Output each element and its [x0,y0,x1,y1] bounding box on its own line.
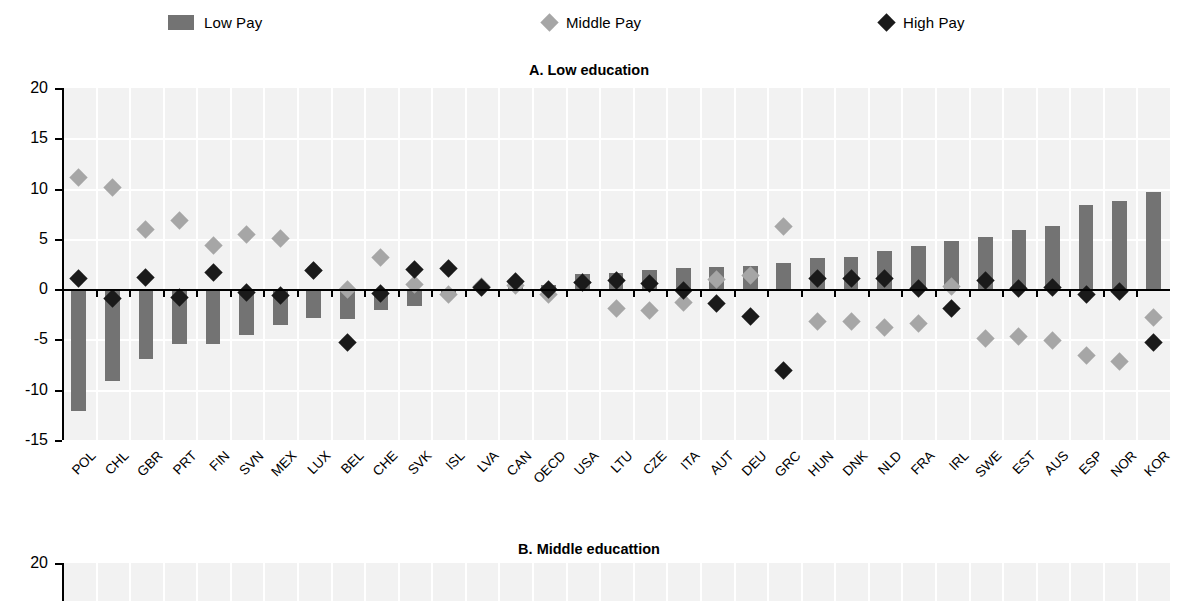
marker-middle-pay [70,168,88,186]
marker-high-pay [943,299,961,317]
gridline-vertical [834,563,836,601]
y-axis-label: -5 [0,330,48,348]
y-axis-label: 5 [0,230,48,248]
gridline-vertical [465,563,467,601]
marker-high-pay [1144,333,1162,351]
gridline-vertical [230,563,232,601]
gridline-vertical [196,88,198,440]
x-axis-tick [1069,291,1071,297]
y-axis-tick [55,563,62,565]
chart-plot-low-education: 20151050-5-10-15POLCHLGBRPRTFINSVNMEXLUX… [0,88,1178,518]
gridline-vertical [398,563,400,601]
gridline-vertical [364,88,366,440]
gridline-vertical [1103,88,1105,440]
y-axis-tick [55,239,62,241]
legend-label: High Pay [903,14,965,31]
gridline-vertical [331,88,333,440]
marker-high-pay [708,294,726,312]
gridline-vertical [734,563,736,601]
plot-area [62,88,1170,440]
x-axis-tick [599,291,601,297]
x-axis-tick [96,291,98,297]
gridline-vertical [465,88,467,440]
y-axis-tick [55,88,62,90]
x-axis-tick [566,291,568,297]
x-axis-tick [163,291,165,297]
x-axis-tick [331,291,333,297]
x-axis-tick [465,291,467,297]
marker-middle-pay [1043,331,1061,349]
marker-middle-pay [137,221,155,239]
y-axis-label: -10 [0,381,48,399]
gridline-vertical [498,563,500,601]
legend-item-high-pay[interactable]: High Pay [880,14,965,31]
panel-middle-education: B. Middle educattion 20151050-5-10-15 [0,537,1178,601]
y-axis-label: -15 [0,431,48,449]
panel-b-title: B. Middle educattion [0,541,1178,557]
y-axis-tick [55,289,62,291]
x-axis-tick [633,291,635,297]
marker-middle-pay [875,318,893,336]
marker-high-pay [741,307,759,325]
x-axis-tick [1103,291,1105,297]
gridline-vertical [566,563,568,601]
bar-low-pay [776,263,791,289]
y-axis-line [62,563,64,601]
legend-diamond-icon [877,13,895,31]
marker-middle-pay [1144,308,1162,326]
gridline-vertical [901,88,903,440]
gridline-vertical [767,88,769,440]
gridline-vertical [633,88,635,440]
marker-high-pay [405,260,423,278]
gridline-vertical [431,88,433,440]
gridline-vertical [163,88,165,440]
y-axis-line [62,88,64,440]
gridline-vertical [700,88,702,440]
y-axis-tick [55,339,62,341]
y-axis-tick [55,440,62,442]
y-axis-label: 20 [0,79,48,97]
marker-middle-pay [170,212,188,230]
gridline-vertical [263,563,265,601]
x-axis-tick [263,291,265,297]
gridline-vertical [398,88,400,440]
gridline-vertical [96,563,98,601]
gridline-vertical [868,88,870,440]
gridline-vertical [801,563,803,601]
chart-plot-middle-education: 20151050-5-10-15 [0,563,1178,601]
x-axis-tick [1136,291,1138,297]
x-axis-tick [700,291,702,297]
bar-low-pay [1112,201,1127,290]
gridline-vertical [734,88,736,440]
gridline-vertical [129,88,131,440]
marker-middle-pay [1010,327,1028,345]
marker-middle-pay [1110,352,1128,370]
gridline-vertical [1036,88,1038,440]
gridline-vertical [263,88,265,440]
gridline-vertical [431,563,433,601]
y-axis-label: 20 [0,554,48,572]
panel-low-education: A. Low education 20151050-5-10-15POLCHLG… [0,60,1178,525]
gridline-vertical [901,563,903,601]
x-axis-tick [532,291,534,297]
marker-middle-pay [808,312,826,330]
x-axis-tick [734,291,736,297]
panel-a-title: A. Low education [0,62,1178,78]
bar-low-pay [306,289,321,318]
y-axis-label: 15 [0,129,48,147]
marker-middle-pay [271,230,289,248]
gridline-vertical [969,88,971,440]
gridline-vertical [297,563,299,601]
legend-label: Middle Pay [566,14,641,31]
gridline-vertical [1103,563,1105,601]
marker-high-pay [775,361,793,379]
bar-low-pay [206,289,221,344]
gridline-vertical [96,88,98,440]
legend-item-middle-pay[interactable]: Middle Pay [543,14,641,31]
x-axis-tick [230,291,232,297]
marker-high-pay [204,263,222,281]
legend-item-low-pay[interactable]: Low Pay [168,14,262,31]
bar-low-pay [1079,205,1094,289]
gridline-vertical [1002,563,1004,601]
marker-high-pay [70,269,88,287]
